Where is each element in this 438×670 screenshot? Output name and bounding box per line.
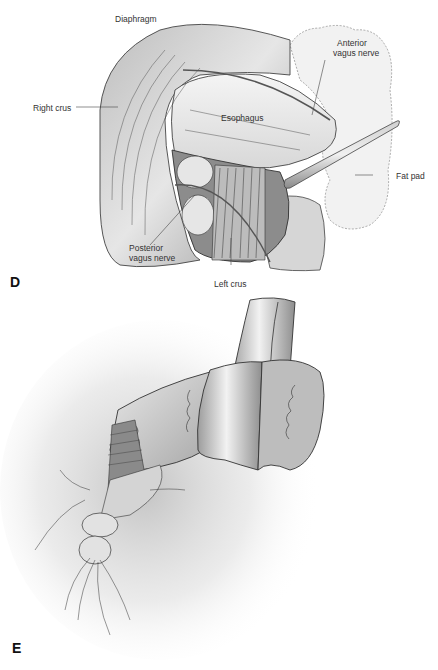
- label-posterior-vagus-2: vagus nerve: [129, 253, 175, 263]
- label-posterior-vagus-1: Posterior: [129, 243, 163, 253]
- label-left-crus: Left crus: [214, 279, 247, 289]
- panel-d-illustration: [0, 0, 438, 290]
- label-diaphragm: Diaphragm: [115, 14, 157, 24]
- panel-letter-e: E: [12, 640, 21, 656]
- label-fat-pad: Fat pad: [396, 171, 425, 181]
- label-anterior-vagus-1: Anterior: [337, 38, 367, 48]
- panel-d-hiatal-anatomy: Diaphragm Right crus Esophagus Anterior …: [0, 0, 438, 290]
- label-right-crus: Right crus: [33, 103, 71, 113]
- stomach-fold-front-shape: [198, 362, 263, 470]
- label-esophagus: Esophagus: [221, 113, 264, 123]
- panel-letter-d: D: [10, 274, 20, 290]
- panel-e-fundoplication: E: [0, 290, 438, 670]
- panel-e-illustration: [0, 290, 438, 670]
- label-anterior-vagus-2: vagus nerve: [333, 48, 379, 58]
